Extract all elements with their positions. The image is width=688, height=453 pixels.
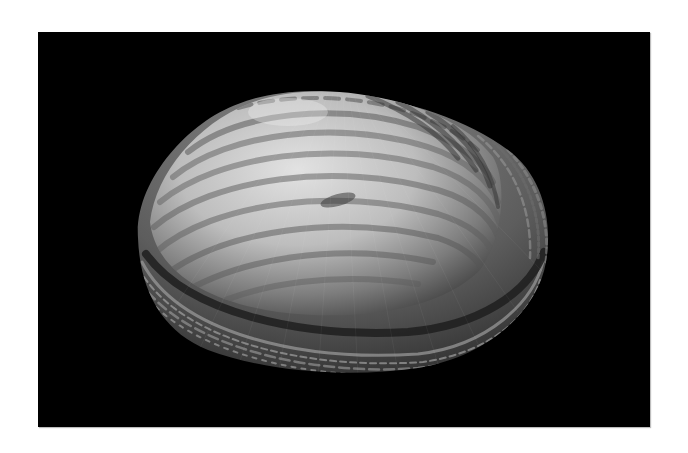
umbo-highlight <box>248 98 328 126</box>
clam-shell-illustration <box>38 32 650 427</box>
page <box>0 0 688 453</box>
shell-photo <box>38 32 650 427</box>
